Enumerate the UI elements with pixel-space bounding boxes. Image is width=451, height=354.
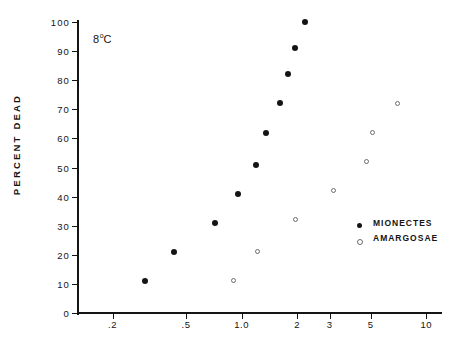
x-tick-label: .5 (181, 319, 190, 330)
y-tick-label: 0 (64, 308, 70, 319)
open-circle-icon (357, 239, 363, 245)
data-point-mionectes (235, 191, 241, 197)
data-point-mionectes (212, 220, 218, 226)
x-tick-label: .2 (108, 319, 117, 330)
y-tick-mark (72, 51, 77, 52)
y-tick-label: 40 (57, 191, 70, 202)
x-tick-label: 5 (368, 319, 374, 330)
y-tick-mark (72, 109, 77, 110)
y-tick-mark (72, 80, 77, 81)
data-point-amargosae (293, 217, 298, 222)
x-tick-label: 10 (420, 319, 432, 330)
data-point-mionectes (171, 249, 177, 255)
y-tick-label: 100 (51, 17, 70, 28)
data-point-mionectes (285, 71, 291, 77)
data-point-mionectes (292, 45, 298, 51)
scatter-plot-figure: PERCENT DEAD 8oC 0102030405060708090100 … (0, 0, 451, 354)
y-tick-label: 20 (57, 249, 70, 260)
data-point-mionectes (277, 100, 283, 106)
y-tick-label: 70 (57, 104, 70, 115)
y-tick-mark (72, 168, 77, 169)
data-point-mionectes (142, 278, 148, 284)
data-point-amargosae (395, 101, 400, 106)
y-axis-line (77, 20, 79, 315)
x-tick-label: 3 (327, 319, 333, 330)
y-tick-mark (72, 284, 77, 285)
temperature-annotation: 8oC (93, 33, 112, 45)
y-tick-mark (72, 22, 77, 23)
legend-label-amargosae: AMARGOSAE (373, 233, 438, 243)
y-axis-title: PERCENT DEAD (11, 85, 22, 205)
data-point-amargosae (255, 249, 260, 254)
y-tick-label: 90 (57, 46, 70, 57)
y-tick-label: 50 (57, 162, 70, 173)
y-tick-mark (72, 313, 77, 314)
y-tick-label: 80 (57, 75, 70, 86)
data-point-amargosae (231, 278, 236, 283)
temperature-value: 8 (93, 33, 100, 45)
x-axis-line (77, 312, 442, 314)
y-tick-mark (72, 197, 77, 198)
degree-symbol: o (100, 32, 104, 39)
y-tick-label: 10 (57, 278, 70, 289)
y-tick-label: 30 (57, 220, 70, 231)
data-point-amargosae (331, 188, 336, 193)
filled-circle-icon (357, 223, 362, 228)
x-tick-label: 2 (294, 319, 300, 330)
data-point-amargosae (370, 130, 375, 135)
data-point-mionectes (253, 162, 259, 168)
data-point-mionectes (302, 19, 308, 25)
data-point-amargosae (364, 159, 369, 164)
y-tick-mark (72, 255, 77, 256)
legend-label-mionectes: MIONECTES (373, 218, 433, 228)
x-tick-label: 1.0 (234, 319, 249, 330)
y-tick-mark (72, 226, 77, 227)
data-point-mionectes (263, 130, 269, 136)
y-tick-mark (72, 138, 77, 139)
x-axis-title (0, 345, 451, 354)
y-tick-label: 60 (57, 133, 70, 144)
